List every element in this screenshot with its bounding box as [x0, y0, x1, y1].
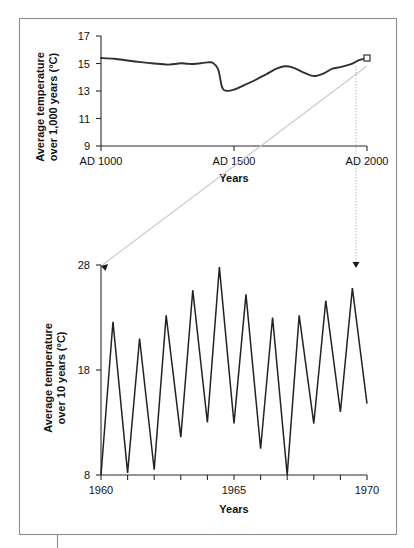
top-ytick-13: 13	[78, 85, 90, 97]
top-ylabel-line2: over 1,000 years (°C)	[47, 52, 59, 161]
bottom-y-ticks	[96, 265, 101, 475]
bottom-temperature-zigzag	[101, 267, 367, 475]
top-ytick-17: 17	[78, 30, 90, 42]
bottom-ytick-8: 8	[84, 469, 90, 481]
top-xtick-ad2000: AD 2000	[346, 155, 389, 167]
top-y-ticks	[96, 36, 101, 146]
temperature-timescale-svg: Average temperature over 1,000 years (°C…	[0, 0, 414, 548]
top-ylabel-line1: Average temperature	[34, 52, 46, 162]
top-endpoint-marker	[364, 55, 370, 61]
top-temperature-curve	[101, 58, 367, 91]
top-x-ticks	[101, 146, 367, 151]
bottom-xtick-1965: 1965	[222, 484, 246, 496]
bottom-ylabel-line2: over 10 years (°C)	[55, 331, 67, 424]
bottom-ytick-28: 28	[78, 259, 90, 271]
bottom-chart: Average temperature over 10 years (°C) 2…	[42, 259, 379, 515]
bottom-ylabel-line1: Average temperature	[42, 323, 54, 433]
top-xtick-ad1500: AD 1500	[213, 155, 256, 167]
top-ytick-15: 15	[78, 58, 90, 70]
bottom-ytick-18: 18	[78, 364, 90, 376]
figure-frame	[20, 19, 397, 535]
top-ytick-11: 11	[79, 113, 90, 125]
bottom-x-ticks	[101, 475, 367, 480]
arrow-to-bottom-right-icon	[353, 262, 360, 268]
top-ytick-9: 9	[84, 140, 90, 152]
top-chart: Average temperature over 1,000 years (°C…	[34, 30, 388, 184]
bottom-xtick-1960: 1960	[89, 484, 113, 496]
panel-connectors	[101, 66, 367, 271]
figure-container: Average temperature over 1,000 years (°C…	[0, 0, 414, 548]
bottom-xtick-1970: 1970	[355, 484, 379, 496]
bottom-xlabel: Years	[219, 503, 248, 515]
zoom-link-diagonal	[101, 66, 367, 266]
top-xtick-ad1000: AD 1000	[80, 155, 123, 167]
